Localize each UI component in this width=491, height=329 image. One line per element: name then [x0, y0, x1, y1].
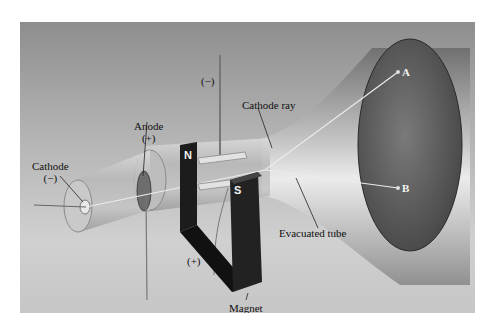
point-a-label: A [402, 66, 410, 78]
cathode-label: Cathode (−) [32, 160, 69, 184]
anode-label: Anode (+) [134, 120, 163, 144]
cathode-ray-label: Cathode ray [242, 99, 295, 111]
fluorescent-screen [358, 39, 462, 251]
anode-text: Anode [134, 120, 163, 132]
anode-disk [137, 171, 151, 211]
evacuated-tube-label: Evacuated tube [279, 227, 347, 239]
top-plate-sign-label: (−) [201, 75, 215, 87]
magnet-north-label: N [184, 149, 192, 161]
point-a-dot [396, 70, 400, 74]
cathode-text: Cathode [32, 160, 69, 172]
point-b-dot [396, 186, 400, 190]
diagram-frame: Cathode (−) Anode (+) (−) Cathode ray Ev… [20, 22, 475, 313]
magnet-leader [246, 293, 248, 300]
cathode-sign: (−) [32, 172, 69, 184]
magnet-label: Magnet [229, 302, 263, 313]
point-b-label: B [402, 182, 409, 194]
bottom-plate-sign-label: (+) [187, 255, 201, 267]
anode-sign: (+) [134, 132, 163, 144]
magnet-south-label: S [234, 184, 241, 196]
